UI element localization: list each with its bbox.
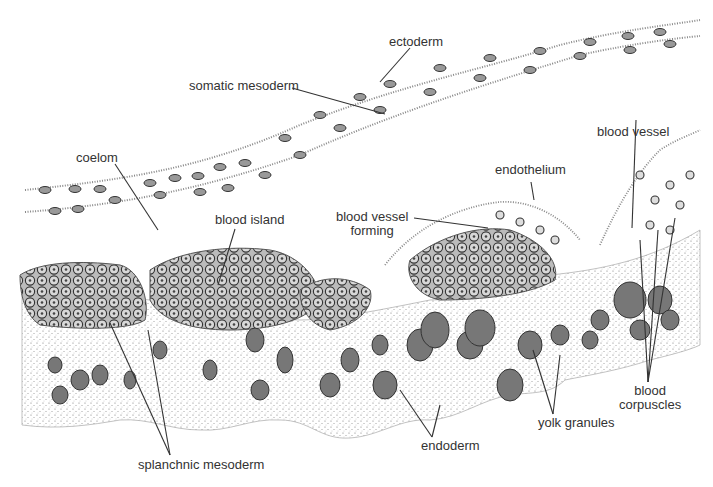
label-endothelium: endothelium xyxy=(495,163,566,177)
ectoderm-layer xyxy=(25,20,700,215)
label-blood-corpuscles-line2: corpuscles xyxy=(619,398,681,412)
label-coelom: coelom xyxy=(76,151,118,165)
label-ectoderm: ectoderm xyxy=(389,35,443,49)
free-blood-corpuscles xyxy=(496,171,694,244)
label-splanchnic-mesoderm: splanchnic mesoderm xyxy=(138,458,264,472)
label-endoderm: endoderm xyxy=(421,439,480,453)
label-blood-island: blood island xyxy=(215,213,284,227)
embryo-tissue-illustration xyxy=(0,0,713,487)
label-somatic-mesoderm: somatic mesoderm xyxy=(189,79,299,93)
label-blood-corpuscles: blood corpuscles xyxy=(619,384,681,412)
label-blood-vessel-forming: blood vessel forming xyxy=(336,210,408,238)
endoderm-layer xyxy=(22,230,700,438)
label-blood-vessel: blood vessel xyxy=(597,125,669,139)
label-blood-vessel-forming-line2: forming xyxy=(336,224,408,238)
label-blood-corpuscles-line1: blood xyxy=(619,384,681,398)
label-blood-vessel-forming-line1: blood vessel xyxy=(336,210,408,224)
label-yolk-granules: yolk granules xyxy=(538,416,615,430)
